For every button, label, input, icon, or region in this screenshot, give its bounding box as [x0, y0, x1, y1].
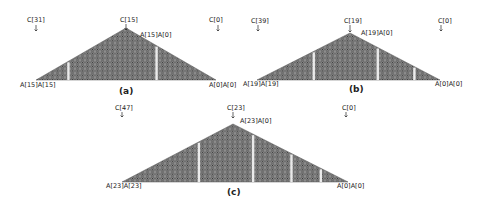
panel-b-arrow-right-icon — [440, 25, 443, 31]
panel-c: C[47] C[23] C[0] A[23]A[0] A[23]A[23] A[… — [106, 104, 364, 197]
panel-a-col-mid-label: C[15] — [120, 16, 138, 24]
panel-a-col-right-label: C[0] — [209, 16, 223, 24]
panel-a-separator-0 — [67, 62, 69, 80]
panel-b-triangle — [257, 33, 440, 80]
panel-c-col-right-label: C[0] — [342, 104, 356, 112]
panel-a-apex-label: A[15]A[0] — [140, 31, 171, 39]
panel-c-col-left-label: C[47] — [115, 104, 133, 112]
panel-b-col-left-label: C[39] — [251, 17, 269, 25]
panel-b-separator-0 — [313, 52, 315, 80]
panel-c-right-label: A[0]A[0] — [337, 182, 364, 190]
panel-a-left-label: A[15]A[15] — [20, 81, 56, 89]
panel-c-separator-0 — [198, 143, 200, 182]
panel-a-caption: (a) — [119, 86, 133, 96]
panel-c-triangle — [122, 124, 348, 182]
panel-b-left-label: A[19]A[19] — [243, 80, 279, 88]
panel-b-col-mid-label: C[19] — [344, 17, 362, 25]
panel-b-apex-label: A[19]A[0] — [361, 29, 392, 37]
panel-a-separator-1 — [155, 47, 157, 80]
panel-b: C[39] C[19] C[0] A[19]A[0] A[19]A[19] A[… — [243, 17, 462, 94]
panel-c-arrow-left-icon — [121, 112, 124, 117]
panel-a-right-label: A[0]A[0] — [209, 81, 236, 89]
diagram-canvas: C[31] C[15] C[0] A[15]A[0] A[15]A[15] A[… — [0, 0, 477, 204]
panel-b-caption: (b) — [349, 84, 364, 94]
panel-b-separator-1 — [377, 49, 379, 80]
panel-c-arrow-mid-icon — [232, 112, 235, 118]
panel-c-separator-1 — [252, 135, 254, 182]
panel-c-left-label: A[23]A[23] — [106, 182, 142, 190]
panel-b-arrow-left-icon — [257, 25, 260, 31]
panel-a-arrow-left-icon — [35, 25, 38, 31]
panel-c-caption: (c) — [227, 187, 241, 197]
panel-b-right-label: A[0]A[0] — [435, 80, 462, 88]
panel-a-arrow-mid-icon — [125, 24, 128, 30]
panel-b-separator-2 — [413, 68, 415, 80]
panel-c-col-mid-label: C[23] — [227, 104, 245, 112]
panel-a-triangle — [36, 28, 216, 80]
panel-c-separator-2 — [290, 155, 292, 182]
panel-c-separator-3 — [320, 169, 322, 182]
panel-b-col-right-label: C[0] — [438, 17, 452, 25]
panel-c-apex-label: A[23]A[0] — [240, 117, 271, 125]
panel-a-arrow-right-icon — [217, 25, 220, 31]
panel-b-arrow-mid-icon — [349, 25, 352, 32]
panel-a-col-left-label: C[31] — [27, 16, 45, 24]
panel-a: C[31] C[15] C[0] A[15]A[0] A[15]A[15] A[… — [20, 16, 236, 96]
panel-c-arrow-right-icon — [345, 112, 348, 117]
